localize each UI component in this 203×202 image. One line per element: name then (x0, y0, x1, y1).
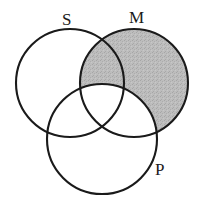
venn-diagram-figure: S M P (0, 0, 203, 202)
venn-diagram-canvas (0, 0, 203, 202)
venn-label-p: P (155, 161, 165, 178)
venn-label-s: S (62, 11, 72, 28)
venn-label-m: M (129, 9, 144, 26)
shaded-region-m-minus-p (0, 0, 203, 202)
